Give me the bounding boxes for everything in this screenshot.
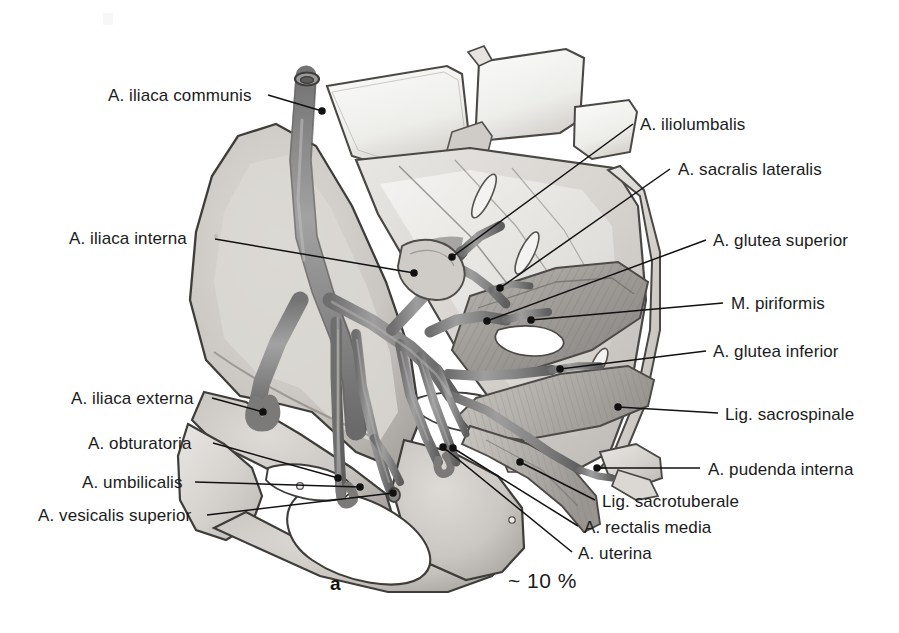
label-a-glutea-superior: A. glutea superior xyxy=(713,231,848,250)
label-a-rectalis-media: A. rectalis media xyxy=(584,518,711,537)
label-a-vesicalis-superior: A. vesicalis superior xyxy=(38,506,191,525)
label-a-iliaca-communis: A. iliaca communis xyxy=(108,86,252,105)
label-a-umbilicalis: A. umbilicalis xyxy=(82,473,183,492)
label-a-iliaca-externa: A. iliaca externa xyxy=(71,389,194,408)
label-a-iliolumbalis: A. iliolumbalis xyxy=(640,115,745,134)
anatomical-figure: A. iliaca communis A. iliaca interna A. … xyxy=(0,0,899,633)
figure-frequency-caption: ~ 10 % xyxy=(508,569,577,593)
label-a-sacralis-lateralis: A. sacralis lateralis xyxy=(678,160,822,179)
label-a-uterina: A. uterina xyxy=(578,544,652,563)
label-m-piriformis: M. piriformis xyxy=(731,294,825,313)
figure-panel-letter: a xyxy=(330,573,341,595)
label-lig-sacrotuberale: Lig. sacrotuberale xyxy=(602,492,739,511)
label-a-obturatoria: A. obturatoria xyxy=(88,434,191,453)
label-a-pudenda-interna: A. pudenda interna xyxy=(708,460,853,479)
label-a-iliaca-interna: A. iliaca interna xyxy=(69,229,187,248)
label-a-glutea-inferior: A. glutea inferior xyxy=(713,342,839,361)
label-lig-sacrospinale: Lig. sacrospinale xyxy=(725,405,854,424)
